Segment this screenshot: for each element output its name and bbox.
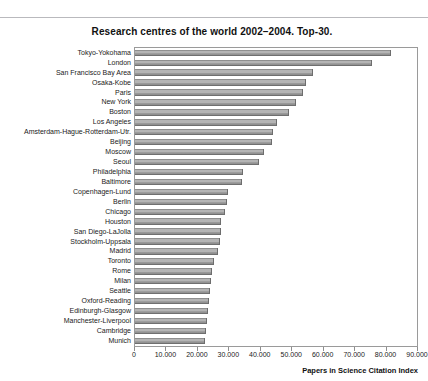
y-axis-tick-label: San Diego-LaJolla bbox=[0, 228, 131, 236]
bar bbox=[135, 288, 210, 294]
x-axis-tick-label: 0 bbox=[132, 351, 136, 359]
y-axis-tick-label: Paris bbox=[0, 89, 131, 97]
chart-title: Research centres of the world 2002–2004.… bbox=[0, 26, 424, 37]
bar bbox=[135, 139, 272, 145]
y-axis-tick-label: Toronto bbox=[0, 257, 131, 265]
x-axis-tick-label: 50.000 bbox=[281, 351, 302, 359]
y-axis-tick-label: Munich bbox=[0, 337, 131, 345]
y-axis-category-labels: Tokyo-YokohamaLondonSan Francisco Bay Ar… bbox=[0, 48, 131, 346]
bar bbox=[135, 258, 214, 264]
y-axis-tick-label: Manchester-Liverpool bbox=[0, 317, 131, 325]
x-axis-tick-label: 20.000 bbox=[186, 351, 207, 359]
y-axis-tick-label: Houston bbox=[0, 218, 131, 226]
y-axis-tick-label: Edinburgh-Glasgow bbox=[0, 307, 131, 315]
y-axis-tick-label: Milan bbox=[0, 277, 131, 285]
x-axis-title: Papers in Science Citation Index bbox=[302, 366, 418, 375]
x-axis-tick-label: 10.000 bbox=[155, 351, 176, 359]
page-divider bbox=[0, 17, 428, 18]
bar bbox=[135, 69, 313, 75]
bar bbox=[135, 50, 391, 56]
x-axis-tick-label: 30.000 bbox=[218, 351, 239, 359]
bar bbox=[135, 79, 306, 85]
bar bbox=[135, 298, 209, 304]
bar bbox=[135, 318, 207, 324]
y-axis-tick-label: Baltimore bbox=[0, 178, 131, 186]
y-axis-tick-label: Seattle bbox=[0, 287, 131, 295]
bar bbox=[135, 189, 228, 195]
y-axis-tick-label: Moscow bbox=[0, 148, 131, 156]
bar bbox=[135, 248, 218, 254]
bar bbox=[135, 149, 264, 155]
bar bbox=[135, 109, 289, 115]
bar bbox=[135, 308, 208, 314]
y-axis-tick-label: Madrid bbox=[0, 247, 131, 255]
x-axis-tick-label: 40.000 bbox=[249, 351, 270, 359]
bar bbox=[135, 99, 296, 105]
bar bbox=[135, 218, 221, 224]
bar bbox=[135, 338, 205, 344]
x-axis-tick-label: 70.000 bbox=[343, 351, 364, 359]
y-axis-tick-label: Cambridge bbox=[0, 327, 131, 335]
bar bbox=[135, 119, 277, 125]
bar bbox=[135, 159, 259, 165]
y-axis-tick-label: New York bbox=[0, 98, 131, 106]
bar bbox=[135, 60, 372, 66]
x-axis-tick-label: 90.000 bbox=[406, 351, 427, 359]
x-axis-tick-label: 80.000 bbox=[375, 351, 396, 359]
bar bbox=[135, 268, 212, 274]
bar bbox=[135, 328, 206, 334]
bar bbox=[135, 179, 242, 185]
y-axis-tick-label: London bbox=[0, 59, 131, 67]
y-axis-tick-label: Chicago bbox=[0, 208, 131, 216]
bar bbox=[135, 169, 243, 175]
x-axis-tick-label: 60.000 bbox=[312, 351, 333, 359]
bar bbox=[135, 278, 211, 284]
y-axis-tick-label: Rome bbox=[0, 267, 131, 275]
y-axis-tick-label: Stockholm-Uppsala bbox=[0, 238, 131, 246]
y-axis-tick-label: Philadelphia bbox=[0, 168, 131, 176]
bar-series bbox=[135, 48, 418, 346]
bar bbox=[135, 228, 221, 234]
bar bbox=[135, 209, 225, 215]
bar bbox=[135, 238, 220, 244]
y-axis-tick-label: Amsterdam-Hague-Rotterdam-Utr. bbox=[0, 128, 131, 136]
y-axis-tick-label: Boston bbox=[0, 108, 131, 116]
y-axis-tick-label: Seoul bbox=[0, 158, 131, 166]
y-axis-tick-label: Oxford-Reading bbox=[0, 297, 131, 305]
y-axis-tick-label: Osaka-Kobe bbox=[0, 79, 131, 87]
y-axis-tick-label: Berlin bbox=[0, 198, 131, 206]
bar bbox=[135, 89, 303, 95]
bar bbox=[135, 129, 273, 135]
y-axis-tick-label: Copenhagen-Lund bbox=[0, 188, 131, 196]
y-axis-tick-label: Los Angeles bbox=[0, 118, 131, 126]
y-axis-tick-label: Beijing bbox=[0, 138, 131, 146]
y-axis-tick-label: Tokyo-Yokohama bbox=[0, 49, 131, 57]
chart-page: Research centres of the world 2002–2004.… bbox=[0, 0, 428, 381]
bar bbox=[135, 199, 227, 205]
y-axis-tick-label: San Francisco Bay Area bbox=[0, 69, 131, 77]
